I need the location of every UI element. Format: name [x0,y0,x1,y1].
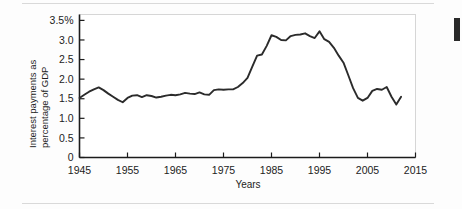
x-tick-label: 1945 [68,164,92,176]
y-tick-label: 2.0 [59,73,74,85]
y-tick-label: 0 [68,151,74,163]
y-axis-tick-labels: 00.51.01.52.02.53.03.5% [50,14,74,163]
x-tick-label: 1965 [164,164,188,176]
y-tick-label: 1.0 [59,112,74,124]
y-tick-label: 0.5 [59,132,74,144]
y-axis-title-line1: Interest payments as [27,60,38,148]
x-tick-label: 2005 [356,164,380,176]
y-axis-title-line2: percentage of GDP [39,67,50,148]
page-background: 00.51.01.52.02.53.03.5% 1945195519651975… [0,0,462,209]
x-tick-label: 2015 [404,164,428,176]
y-tick-label: 3.5% [50,14,74,26]
x-axis-tick-labels: 19451955196519751985199520052015 [68,164,428,176]
x-tick-label: 1995 [308,164,332,176]
plot-frame [80,15,416,158]
y-tick-label: 2.5 [59,53,74,65]
x-tick-label: 1955 [116,164,140,176]
x-axis-title: Years [235,179,260,190]
page-edge-marker [454,18,460,41]
x-tick-label: 1975 [212,164,236,176]
chart-canvas: 00.51.01.52.02.53.03.5% 1945195519651975… [0,0,440,209]
y-tick-label: 3.0 [59,34,74,46]
x-tick-label: 1985 [260,164,284,176]
y-tick-label: 1.5 [59,92,74,104]
figure-line-chart: 00.51.01.52.02.53.03.5% 1945195519651975… [0,0,440,209]
